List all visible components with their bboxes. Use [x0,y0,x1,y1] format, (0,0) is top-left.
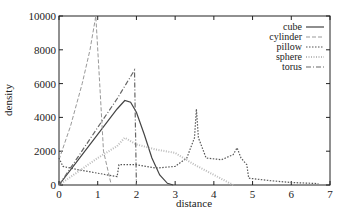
x-tick-label: 7 [327,188,333,200]
series-torus [59,70,136,185]
x-axis-label: distance [176,197,212,209]
x-tick-label: 5 [250,188,256,200]
y-axis-label: density [2,84,14,116]
x-tick-label: 0 [56,188,62,200]
x-tick-label: 1 [95,188,101,200]
y-tick-label: 10000 [29,10,57,22]
legend-label-torus: torus [282,61,302,72]
y-tick-label: 8000 [34,44,57,56]
legend: cubecylinderpillowspheretorus [269,21,324,72]
y-tick-label: 2000 [34,145,57,157]
series-pillow [59,109,318,184]
series-sphere [59,138,233,185]
y-tick-label: 6000 [34,78,57,90]
x-tick-label: 2 [134,188,140,200]
x-tick-label: 6 [289,188,295,200]
chart: 0200040006000800010000 01234567 cubecyli… [0,0,348,217]
y-tick-label: 4000 [34,111,57,123]
series-cylinder [59,16,111,185]
series-cube [59,101,173,186]
